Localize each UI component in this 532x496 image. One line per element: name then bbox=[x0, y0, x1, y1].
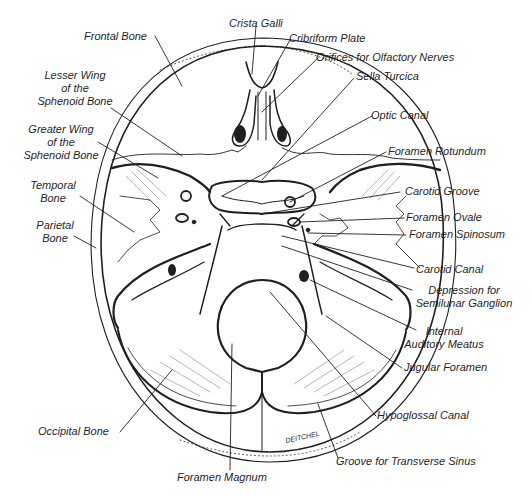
leader-lines bbox=[74, 26, 416, 470]
label-jugular-foramen: Jugular Foramen bbox=[404, 361, 487, 374]
label-carotid-groove: Carotid Groove bbox=[405, 185, 480, 198]
artist-signature: DEITCHEL bbox=[285, 430, 320, 444]
petrous-left bbox=[114, 244, 211, 328]
crista-galli-shape bbox=[246, 62, 278, 88]
label-internal-auditory-meatus: Internal Auditory Meatus bbox=[396, 325, 492, 351]
label-cribriform-plate: Cribriform Plate bbox=[289, 32, 365, 45]
label-semilunar-depression: Depression for Semilunar Ganglion bbox=[404, 284, 524, 310]
clivus bbox=[200, 226, 322, 314]
label-lesser-wing-sphenoid: Lesser Wing of the Sphenoid Bone bbox=[30, 69, 120, 108]
label-frontal-bone: Frontal Bone bbox=[84, 30, 147, 43]
label-occipital-bone: Occipital Bone bbox=[38, 425, 109, 438]
foramen-magnum-shape bbox=[218, 280, 306, 372]
label-sella-turcica: Sella Turcica bbox=[356, 70, 419, 83]
label-foramen-rotundum: Foramen Rotundum bbox=[388, 145, 486, 158]
label-foramen-magnum: Foramen Magnum bbox=[177, 471, 267, 484]
label-transverse-sinus-groove: Groove for Transverse Sinus bbox=[336, 455, 476, 468]
skull-base-diagram: DEITCHEL Frontal Bone Lesser Wing of the… bbox=[0, 0, 532, 496]
skull-inner-outline bbox=[101, 46, 443, 452]
occipital-fossa-left bbox=[118, 330, 262, 413]
label-optic-canal: Optic Canal bbox=[371, 109, 428, 122]
lesser-wing-left bbox=[112, 164, 210, 192]
label-hypoglossal-canal: Hypoglossal Canal bbox=[377, 409, 469, 422]
label-temporal-bone: Temporal Bone bbox=[28, 179, 78, 205]
occipital-fossa-right bbox=[262, 332, 406, 413]
label-parietal-bone: Parietal Bone bbox=[34, 219, 76, 245]
label-foramen-ovale: Foramen Ovale bbox=[406, 211, 482, 224]
label-greater-wing-sphenoid: Greater Wing of the Sphenoid Bone bbox=[16, 123, 106, 162]
label-crista-galli: Crista Galli bbox=[229, 17, 283, 30]
petrous-right bbox=[314, 244, 411, 330]
label-carotid-canal: Carotid Canal bbox=[416, 263, 483, 276]
label-foramen-spinosum: Foramen Spinosum bbox=[409, 228, 505, 241]
label-olfactory-orifices: Orifices for Olfactory Nerves bbox=[316, 51, 454, 64]
